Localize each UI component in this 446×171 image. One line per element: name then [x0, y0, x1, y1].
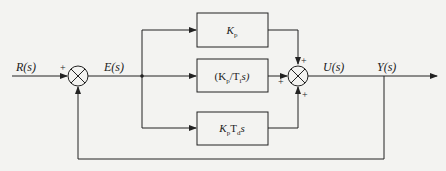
output-signal-label: Y(s): [377, 60, 396, 74]
input-signal-label: R(s): [15, 60, 36, 74]
plus-sign-input: +: [60, 62, 66, 73]
proportional-block-label: Kp: [226, 24, 238, 39]
pid-block-diagram: R(s) E(s) U(s) Y(s) + + + + Kp (Kp/Tis) …: [0, 0, 446, 171]
control-signal-label: U(s): [323, 60, 344, 74]
error-signal-label: E(s): [103, 60, 124, 74]
plus-sign-middle: +: [278, 76, 284, 87]
branch-point: [140, 74, 144, 78]
derivative-block-label: KpTds: [218, 122, 244, 137]
output-summing-junction: [288, 66, 308, 86]
integral-block-label: (Kp/Tis): [215, 70, 250, 85]
plus-sign-bottom: +: [302, 89, 308, 100]
feedback-path: [78, 76, 384, 159]
plus-sign-top: +: [301, 55, 307, 66]
error-summing-junction: [68, 66, 88, 86]
